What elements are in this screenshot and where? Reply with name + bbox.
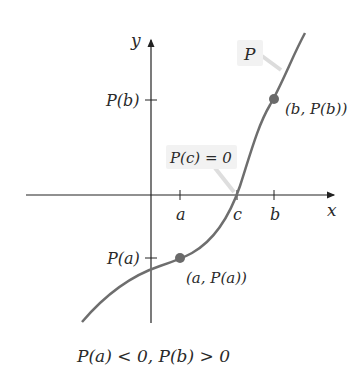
x-axis-label: x [327,200,337,220]
curve-label-callout: P [237,40,281,70]
y-tick-label-pa: P(a) [106,249,140,268]
curve-label: P [243,44,256,64]
point-label-b: (b, P(b)) [285,100,347,118]
ivt-diagram: P P(c) = 0 y x a c b P(b) P( [0,0,361,365]
point-a-pa [175,253,185,263]
point-b-pb [269,94,279,104]
point-label-a: (a, P(a)) [186,269,247,287]
diagram-canvas: P P(c) = 0 y x a c b P(b) P( [0,0,361,365]
y-tick-label-pb: P(b) [105,91,140,110]
root-callout-text: P(c) = 0 [169,149,232,167]
caption: P(a) < 0, P(b) > 0 [76,346,230,365]
x-tick-label-a: a [176,205,186,224]
root-callout: P(c) = 0 [166,145,237,192]
x-tick-label-c: c [233,205,242,224]
y-axis-label: y [130,30,141,50]
x-tick-label-b: b [270,205,280,224]
